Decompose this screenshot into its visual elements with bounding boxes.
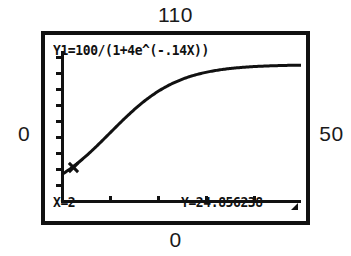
trace-cursor xyxy=(67,161,80,174)
trace-status-bar: X=2 Y=24.856238 xyxy=(45,195,306,215)
function-curve xyxy=(45,35,306,221)
window-ymax-label: 110 xyxy=(0,4,351,25)
busy-square-icon xyxy=(291,203,298,210)
equation-label: Y1=100/(1+4e^(-.14X)) xyxy=(53,43,209,57)
trace-x-value: X=2 xyxy=(53,195,75,209)
trace-y-value: Y=24.856238 xyxy=(181,195,263,209)
calculator-lcd-bezel: Y1=100/(1+4e^(-.14X)) X=2 Y=24.856238 xyxy=(41,31,310,225)
calculator-lcd[interactable]: Y1=100/(1+4e^(-.14X)) X=2 Y=24.856238 xyxy=(45,35,306,221)
window-xmax-label: 50 xyxy=(312,123,351,144)
graph-plot-area[interactable] xyxy=(45,35,306,221)
window-xmin-label: 0 xyxy=(8,123,40,144)
window-ymin-label: 0 xyxy=(0,229,351,250)
calculator-screenshot: 110 0 50 0 xyxy=(0,0,351,256)
